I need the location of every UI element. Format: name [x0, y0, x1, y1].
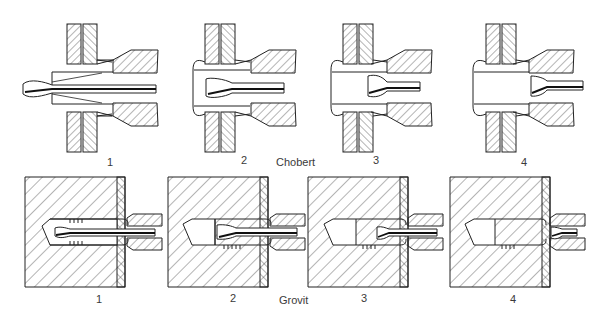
chobert-step-1-label: 1 [107, 157, 113, 168]
chobert-step-2 [193, 24, 296, 152]
chobert-step-4-label: 4 [521, 157, 527, 168]
chobert-step-1 [23, 24, 158, 152]
grovit-step-3-label: 3 [361, 293, 367, 304]
chobert-step-3 [331, 24, 432, 152]
grovit-step-4 [450, 177, 585, 287]
grovit-step-2 [168, 177, 305, 287]
chobert-step-3-label: 3 [373, 155, 379, 166]
grovit-step-1-label: 1 [96, 294, 102, 305]
grovit-row-title: Grovit [279, 295, 308, 306]
grovit-step-1 [25, 177, 162, 287]
grovit-step-4-label: 4 [510, 294, 516, 305]
chobert-step-4 [473, 24, 583, 152]
grovit-step-3 [308, 177, 443, 287]
chobert-step-2-label: 2 [241, 155, 247, 166]
grovit-step-2-label: 2 [230, 293, 236, 304]
chobert-row-title: Chobert [276, 157, 315, 168]
